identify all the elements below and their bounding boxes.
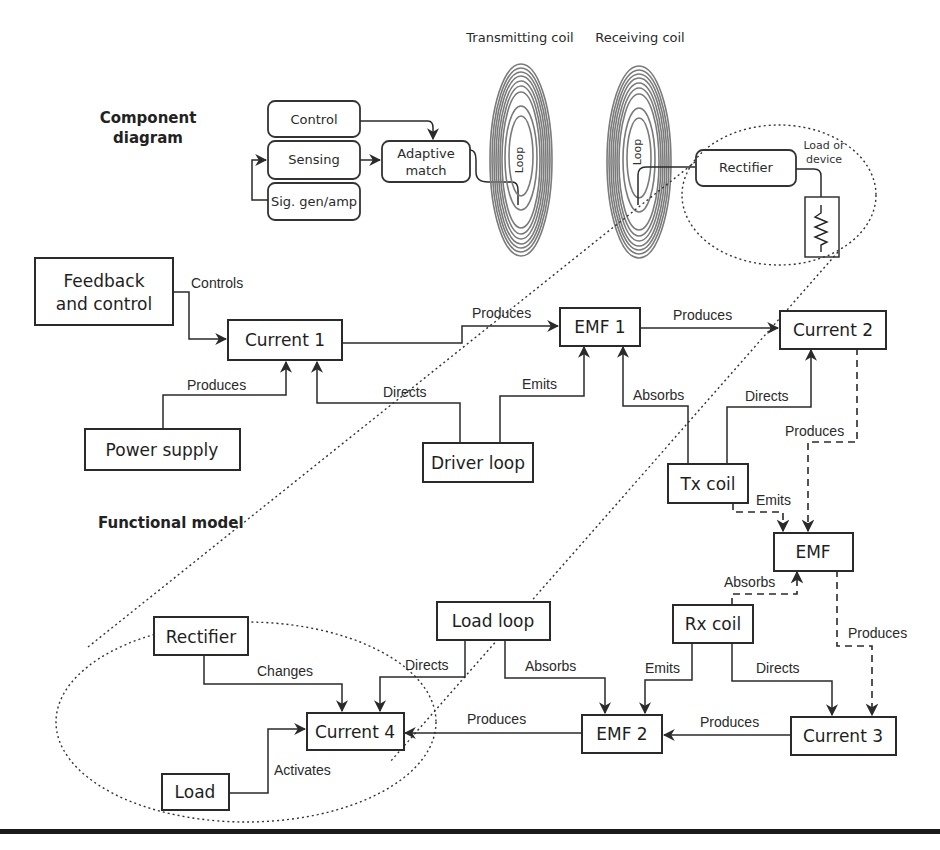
node-rx-coil: Rx coil (673, 605, 753, 643)
node-feedback-label-line1: Feedback (64, 271, 145, 291)
node-tx-coil: Tx coil (668, 464, 748, 503)
node-emf-label: EMF (795, 542, 830, 562)
node-current4-label: Current 4 (315, 722, 395, 742)
node-driver-loop: Driver loop (423, 443, 533, 482)
block-sensing-label: Sensing (288, 152, 339, 167)
magnifier-ellipse-top (682, 125, 876, 265)
edge-loadloop-emf2 (505, 640, 605, 713)
bottom-rule-divider (0, 829, 940, 834)
diagram-svg: Component diagram Functional model Contr… (0, 0, 940, 850)
connector-control-adaptive (360, 121, 433, 139)
edge-driver-emf1 (500, 347, 584, 443)
transmitting-coil-label: Transmitting coil (465, 30, 573, 45)
receiving-coil-label: Receiving coil (595, 30, 684, 45)
node-driver-loop-label: Driver loop (431, 453, 525, 473)
diagram-canvas: Component diagram Functional model Contr… (0, 0, 940, 850)
node-current3-label: Current 3 (803, 726, 883, 746)
node-load: Load (162, 774, 229, 810)
node-emf: EMF (774, 533, 853, 571)
edge-rxcoil-emf2 (645, 643, 692, 713)
edge-label-emf-produces: Produces (848, 625, 907, 641)
edge-label-rectifier-changes: Changes (257, 663, 313, 679)
projection-line-left (88, 162, 695, 647)
node-current4: Current 4 (307, 713, 404, 750)
node-load-loop-label: Load loop (452, 611, 535, 631)
heading-component-diagram-line1: Component (100, 109, 197, 127)
edge-load-current4 (229, 729, 305, 793)
node-current2: Current 2 (780, 311, 886, 349)
heading-component-diagram-line2: diagram (113, 129, 183, 147)
edge-emf-current3 (837, 570, 872, 715)
edge-label-power-produces: Produces (187, 377, 246, 393)
edge-label-current1-produces: Produces (472, 305, 531, 321)
node-current1: Current 1 (228, 320, 342, 360)
node-load-label: Load (175, 782, 216, 802)
edge-label-current2-produces: Produces (785, 423, 844, 439)
edge-txcoil-emf1 (623, 347, 688, 463)
node-emf2-label: EMF 2 (596, 724, 647, 744)
node-feedback-and-control: Feedback and control (35, 258, 173, 325)
edge-label-load-activates: Activates (274, 762, 331, 778)
edge-label-rxcoil-absorbs: Absorbs (724, 574, 775, 590)
block-control-label: Control (291, 112, 338, 127)
edge-loadloop-current4 (380, 640, 465, 711)
node-rectifier: Rectifier (154, 617, 248, 655)
block-sig-gen-label: Sig. gen/amp (271, 194, 357, 209)
edge-feedback-current1 (173, 292, 226, 339)
edge-label-txcoil-emits: Emits (756, 492, 791, 508)
block-rectifier: Rectifier (696, 150, 796, 186)
connector-siggen-sensing (252, 160, 268, 200)
rx-loop-label: Loop (631, 139, 644, 165)
heading-functional-model: Functional model (98, 514, 244, 532)
node-rx-coil-label: Rx coil (685, 614, 741, 634)
block-adaptive-match-label-line2: match (405, 163, 446, 178)
node-load-loop: Load loop (437, 602, 550, 640)
node-tx-coil-label: Tx coil (679, 474, 735, 494)
resistor-load-icon (805, 197, 839, 257)
block-adaptive-match-label-line1: Adaptive (397, 146, 455, 161)
edge-label-controls: Controls (191, 275, 243, 291)
edge-label-emf1-produces: Produces (673, 307, 732, 323)
block-sig-gen: Sig. gen/amp (268, 183, 360, 220)
connector-rectifier-load (796, 169, 821, 197)
edge-label-emf2-produces: Produces (467, 711, 526, 727)
node-emf1: EMF 1 (560, 308, 640, 346)
transmitting-coil-icon: Loop (490, 64, 552, 256)
edge-label-driver-emits: Emits (522, 376, 557, 392)
node-feedback-label-line2: and control (56, 294, 152, 314)
node-emf2: EMF 2 (582, 715, 662, 753)
tx-loop-label: Loop (513, 147, 526, 173)
edge-label-driver-directs: Directs (383, 384, 427, 400)
node-current2-label: Current 2 (793, 320, 873, 340)
node-emf1-label: EMF 1 (574, 317, 625, 337)
node-current3: Current 3 (791, 717, 896, 755)
block-adaptive-match: Adaptive match (382, 141, 470, 182)
edge-label-txcoil-absorbs: Absorbs (633, 387, 684, 403)
edge-label-rxcoil-emits: Emits (645, 660, 680, 676)
edge-label-loadloop-absorbs: Absorbs (525, 658, 576, 674)
block-rectifier-label: Rectifier (719, 160, 773, 175)
edge-label-txcoil-directs: Directs (745, 388, 789, 404)
edge-current2-emf (808, 348, 857, 531)
load-device-label-line2: device (806, 153, 842, 166)
receiving-coil-icon: Loop (607, 66, 671, 258)
edge-rxcoil-current3 (732, 643, 832, 715)
edge-driver-current1 (317, 362, 460, 443)
edge-label-loadloop-directs: Directs (405, 657, 449, 673)
node-rectifier-label: Rectifier (166, 627, 236, 647)
edge-label-rxcoil-directs: Directs (756, 660, 800, 676)
edge-power-current1 (163, 362, 286, 428)
node-current1-label: Current 1 (245, 330, 325, 350)
block-control: Control (268, 101, 360, 137)
edge-txcoil-current2 (727, 350, 811, 463)
block-sensing: Sensing (268, 141, 360, 179)
edge-label-current3-produces: Produces (700, 714, 759, 730)
load-device-label-line1: Load or (803, 139, 845, 152)
edge-current1-emf1 (342, 326, 558, 343)
node-power-supply-label: Power supply (106, 440, 219, 460)
node-power-supply: Power supply (85, 429, 240, 470)
